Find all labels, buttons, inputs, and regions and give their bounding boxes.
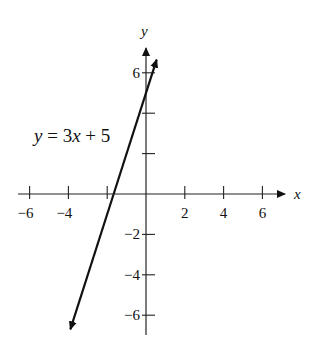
- y-tick-label: −2: [124, 226, 140, 242]
- x-tick-label: 6: [259, 205, 267, 221]
- x-tick-label: 2: [181, 205, 189, 221]
- x-tick-label: −6: [18, 205, 34, 221]
- y-axis-label: y: [139, 23, 148, 39]
- line-lower: [70, 195, 113, 330]
- x-tick-label: 4: [220, 205, 228, 221]
- y-tick-label: −4: [124, 267, 140, 283]
- coordinate-plane: −6−4246−6−4−26 x y y = 3x + 5: [0, 0, 318, 346]
- x-tick-label: −4: [56, 205, 72, 221]
- x-axis-label: x: [293, 186, 301, 202]
- y-tick-label: 6: [133, 65, 141, 81]
- y-tick-label: −6: [124, 307, 140, 323]
- equation-label: y = 3x + 5: [32, 125, 110, 146]
- axes: [18, 48, 285, 335]
